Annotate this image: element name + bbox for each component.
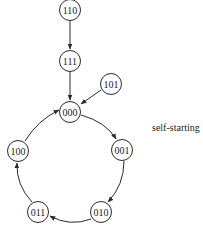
state-label-000: 000 — [63, 107, 78, 118]
edge-010-011 — [50, 216, 91, 222]
state-label-101: 101 — [104, 79, 119, 90]
state-node-010: 010 — [91, 202, 112, 223]
state-node-011: 011 — [28, 202, 49, 223]
edge-001-010 — [108, 161, 124, 202]
state-diagram: 110 111 101 000 001 010 011 100 self-sta… — [0, 0, 203, 227]
state-node-000: 000 — [60, 102, 81, 123]
edge-011-100 — [17, 163, 32, 202]
state-node-001: 001 — [112, 140, 133, 161]
state-label-111: 111 — [63, 56, 77, 67]
state-label-110: 110 — [63, 5, 78, 16]
state-label-100: 100 — [11, 146, 26, 157]
state-node-100: 100 — [8, 141, 29, 162]
edge-101-000 — [81, 90, 101, 104]
state-node-101: 101 — [101, 74, 122, 95]
state-label-011: 011 — [31, 207, 46, 218]
state-node-110: 110 — [60, 0, 81, 21]
state-label-001: 001 — [115, 145, 130, 156]
self-starting-note: self-starting — [152, 122, 200, 133]
state-label-010: 010 — [94, 207, 109, 218]
edge-100-000 — [25, 110, 59, 141]
edge-000-001 — [81, 115, 116, 139]
state-node-111: 111 — [60, 51, 81, 72]
